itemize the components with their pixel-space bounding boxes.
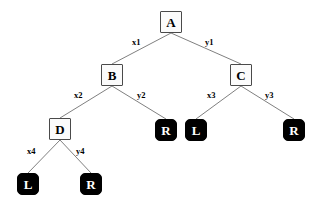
edge-label-x4: x4	[27, 147, 36, 156]
edge-label-y3: y3	[265, 91, 274, 100]
tree-edge-D-R4	[60, 140, 91, 173]
tree-node-r3[interactable]: R	[283, 119, 305, 141]
tree-node-r4[interactable]: R	[80, 173, 102, 195]
edge-label-x2: x2	[74, 91, 83, 100]
edge-label-x1: x1	[132, 38, 141, 47]
tree-edge-B-D	[60, 86, 112, 118]
tree-node-l4[interactable]: L	[17, 173, 39, 195]
edge-label-y4: y4	[76, 147, 85, 156]
tree-node-l3[interactable]: L	[185, 119, 207, 141]
edge-label-y2: y2	[137, 91, 146, 100]
tree-edge-C-L3	[196, 86, 241, 119]
tree-node-b[interactable]: B	[101, 64, 123, 86]
tree-node-r2[interactable]: R	[155, 119, 177, 141]
tree-edge-A-B	[112, 33, 171, 64]
tree-node-d[interactable]: D	[49, 118, 71, 140]
binary-tree-diagram: ABCDRLRLR x1y1x2y2x3y3x4y4	[0, 0, 319, 201]
tree-node-a[interactable]: A	[160, 11, 182, 33]
edge-label-x3: x3	[207, 91, 216, 100]
tree-edge-D-L4	[28, 140, 60, 173]
edge-label-y1: y1	[205, 38, 214, 47]
tree-node-c[interactable]: C	[230, 64, 252, 86]
